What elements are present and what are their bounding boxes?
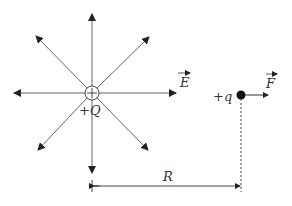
distance-label: R [163,170,173,183]
force-label: F [266,77,275,90]
field-label: E [180,76,190,89]
field-line-downright [97,98,148,150]
field-line-upleft [36,36,87,88]
test-charge-label: +q [213,90,232,103]
source-charge-label: +Q [79,104,101,117]
diagram-canvas: +Q +q E F R [0,0,292,206]
field-line-upright [97,37,149,88]
source-charge [85,86,99,100]
test-charge [237,91,269,193]
field-lines-svg [0,0,292,206]
